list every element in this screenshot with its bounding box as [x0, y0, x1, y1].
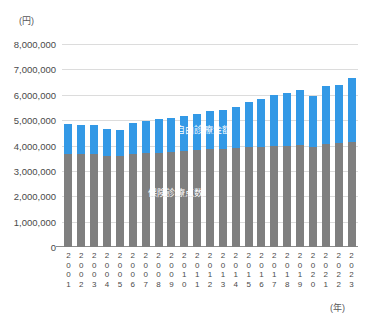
x-tick-digit: 0: [178, 261, 191, 271]
x-tick-digit: 0: [178, 280, 191, 290]
bar-column: [142, 121, 150, 247]
x-tick-digit: 1: [281, 270, 294, 280]
x-tick-digit: 1: [178, 270, 191, 280]
x-axis-tick-labels: 2001200220032004200520062007200820092010…: [62, 251, 358, 299]
x-axis-tick-label: 2004: [101, 251, 114, 289]
bar-column: [257, 99, 265, 247]
bar-segment-jiyu-shinryo: [142, 121, 150, 153]
bar-column: [167, 118, 175, 247]
x-tick-digit: 0: [139, 261, 152, 271]
bar-segment-hoken-shinryo: [322, 144, 330, 247]
x-tick-digit: 0: [101, 261, 114, 271]
x-axis-tick-label: 2010: [178, 251, 191, 289]
x-axis-tick-label: 2005: [113, 251, 126, 289]
x-tick-digit: 2: [191, 251, 204, 261]
bar-segment-hoken-shinryo: [296, 145, 304, 247]
x-tick-digit: 1: [294, 270, 307, 280]
x-tick-digit: 0: [268, 261, 281, 271]
x-tick-digit: 2: [307, 251, 320, 261]
bar-segment-jiyu-shinryo: [257, 99, 265, 147]
bar-column: [90, 125, 98, 247]
bar-column: [64, 124, 72, 247]
bar-column: [309, 96, 317, 247]
x-axis-tick-label: 2019: [294, 251, 307, 289]
x-tick-digit: 2: [139, 251, 152, 261]
x-tick-digit: 3: [216, 280, 229, 290]
bar-segment-hoken-shinryo: [257, 147, 265, 247]
bar-segment-hoken-shinryo: [142, 153, 150, 247]
x-tick-digit: 2: [229, 251, 242, 261]
x-tick-digit: 0: [62, 270, 75, 280]
bar-segment-jiyu-shinryo: [335, 85, 343, 144]
x-tick-digit: 0: [113, 261, 126, 271]
bar-segment-jiyu-shinryo: [283, 93, 291, 146]
bar-segment-hoken-shinryo: [103, 156, 111, 247]
x-tick-digit: 2: [307, 270, 320, 280]
bar-segment-hoken-shinryo: [64, 154, 72, 247]
x-tick-digit: 5: [242, 280, 255, 290]
x-tick-digit: 2: [281, 251, 294, 261]
x-axis-tick-label: 2021: [319, 251, 332, 289]
x-axis-tick-label: 2015: [242, 251, 255, 289]
x-axis-tick-label: 2023: [345, 251, 358, 289]
bar-segment-jiyu-shinryo: [155, 119, 163, 153]
x-tick-digit: 1: [62, 280, 75, 290]
x-tick-digit: 0: [204, 261, 217, 271]
bar-column: [270, 95, 278, 247]
x-tick-digit: 7: [139, 280, 152, 290]
bar-segment-jiyu-shinryo: [77, 125, 85, 154]
x-tick-digit: 2: [204, 280, 217, 290]
y-axis-tick-label: 6,000,000: [0, 89, 56, 100]
series-label-jiyu-shinryo: 自由診療金額: [176, 123, 231, 136]
bar-segment-jiyu-shinryo: [322, 86, 330, 144]
y-axis-tick-label: 7,000,000: [0, 64, 56, 75]
y-axis-tick-label: 3,000,000: [0, 165, 56, 176]
x-tick-digit: 9: [294, 280, 307, 290]
x-tick-digit: 0: [255, 261, 268, 271]
bar-segment-hoken-shinryo: [245, 147, 253, 247]
bar-segment-jiyu-shinryo: [270, 95, 278, 146]
x-tick-digit: 1: [216, 270, 229, 280]
x-tick-digit: 6: [255, 280, 268, 290]
x-axis-tick-label: 2014: [229, 251, 242, 289]
x-tick-digit: 0: [345, 261, 358, 271]
x-tick-digit: 1: [204, 270, 217, 280]
bar-segment-hoken-shinryo: [232, 148, 240, 247]
bar-column: [77, 125, 85, 247]
x-tick-digit: 2: [113, 251, 126, 261]
x-tick-digit: 0: [307, 261, 320, 271]
x-axis-tick-label: 2020: [307, 251, 320, 289]
bar-segment-hoken-shinryo: [206, 149, 214, 247]
bar-segment-hoken-shinryo: [283, 146, 291, 248]
bar-column: [245, 102, 253, 247]
x-tick-digit: 0: [242, 261, 255, 271]
bar-segment-hoken-shinryo: [219, 149, 227, 247]
x-tick-digit: 0: [88, 270, 101, 280]
x-tick-digit: 2: [204, 251, 217, 261]
x-tick-digit: 1: [191, 270, 204, 280]
x-tick-digit: 0: [152, 270, 165, 280]
x-axis-tick-label: 2018: [281, 251, 294, 289]
x-axis-tick-label: 2013: [216, 251, 229, 289]
bar-segment-hoken-shinryo: [270, 146, 278, 247]
x-tick-digit: 2: [319, 251, 332, 261]
x-tick-digit: 0: [126, 270, 139, 280]
bar-column: [232, 107, 240, 247]
x-tick-digit: 2: [268, 251, 281, 261]
bar-segment-jiyu-shinryo: [129, 123, 137, 154]
x-tick-digit: 2: [152, 251, 165, 261]
bar-column: [283, 93, 291, 247]
x-tick-digit: 2: [319, 270, 332, 280]
x-tick-digit: 0: [88, 261, 101, 271]
x-tick-digit: 8: [281, 280, 294, 290]
x-tick-digit: 2: [332, 251, 345, 261]
x-tick-digit: 2: [332, 280, 345, 290]
x-tick-digit: 0: [165, 261, 178, 271]
bar-segment-hoken-shinryo: [167, 152, 175, 247]
x-tick-digit: 0: [332, 261, 345, 271]
x-tick-digit: 0: [307, 280, 320, 290]
y-axis-tick-label: 4,000,000: [0, 140, 56, 151]
x-tick-digit: 2: [332, 270, 345, 280]
x-axis-unit-label: (年): [330, 301, 345, 314]
x-tick-digit: 8: [152, 280, 165, 290]
